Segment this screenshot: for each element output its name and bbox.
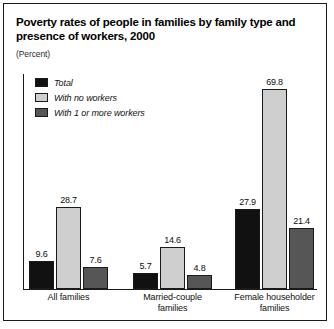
bar-value-label: 7.6 [77, 255, 114, 265]
bar-value-label: 21.4 [283, 216, 320, 226]
bar [289, 228, 314, 289]
bar [235, 209, 260, 289]
bar-value-label: 9.6 [23, 249, 60, 259]
bars-layer: 9.628.77.65.714.64.827.969.821.4 [24, 74, 317, 289]
x-axis-line [23, 289, 317, 290]
bar [133, 273, 158, 289]
bar [187, 275, 212, 289]
bar-value-label: 14.6 [154, 235, 191, 245]
bar-value-label: 27.9 [229, 197, 266, 207]
bar-value-label: 5.7 [127, 261, 164, 271]
category-label: Female householderfamilies [211, 292, 334, 314]
bar [56, 207, 81, 289]
plot-area: 9.628.77.65.714.64.827.969.821.4 [23, 74, 317, 289]
page-title: Poverty rates of people in families by f… [16, 15, 306, 43]
chart-figure: Poverty rates of people in families by f… [3, 3, 327, 321]
bar [83, 267, 108, 289]
bar [29, 261, 54, 289]
bar-value-label: 28.7 [50, 195, 87, 205]
title-block: Poverty rates of people in families by f… [16, 15, 306, 59]
chart-subtitle: (Percent) [16, 49, 306, 59]
bar-value-label: 4.8 [181, 263, 218, 273]
category-axis-labels: All familiesMarried-couplefamiliesFemale… [24, 292, 318, 320]
bar [262, 89, 287, 289]
bar-value-label: 69.8 [256, 77, 293, 87]
